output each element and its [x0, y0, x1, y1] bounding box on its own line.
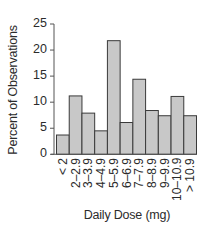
bar: [184, 116, 197, 155]
x-tick-label: 4–4.9: [94, 158, 108, 188]
y-tick-label: 20: [25, 42, 47, 56]
bar: [171, 96, 184, 154]
y-tick-label: 25: [25, 16, 47, 30]
y-tick-label: 0: [25, 146, 47, 160]
bar: [107, 41, 120, 155]
x-tick-label: 8–8.9: [145, 158, 159, 188]
bar: [120, 123, 133, 155]
bar: [57, 135, 70, 154]
bar: [82, 113, 95, 154]
bar: [158, 116, 171, 155]
x-tick-label: > 10.9: [183, 158, 197, 192]
bar: [69, 96, 82, 154]
histogram-chart: Percent of Observations Daily Dose (mg) …: [0, 0, 211, 230]
bar: [146, 111, 159, 155]
y-tick-label: 5: [25, 120, 47, 134]
y-axis-title: Percent of Observations: [6, 25, 20, 155]
x-tick-label: 5–5.9: [107, 158, 121, 188]
y-tick-label: 15: [25, 68, 47, 82]
bar: [95, 131, 108, 154]
x-axis-title: Daily Dose (mg): [52, 208, 202, 222]
bar: [133, 79, 146, 154]
y-axis-title-wrap: Percent of Observations: [5, 24, 21, 156]
x-tick-label: < 2: [56, 158, 70, 175]
y-tick-label: 10: [25, 94, 47, 108]
